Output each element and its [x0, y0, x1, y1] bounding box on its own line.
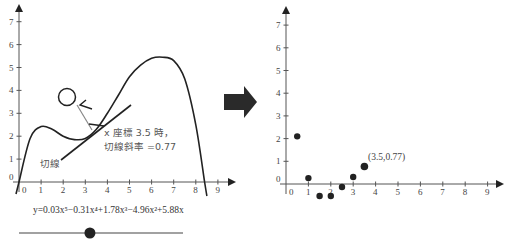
left-y-tick-label: 4 — [9, 85, 14, 95]
x-slider[interactable] — [19, 228, 183, 239]
left-x-tick-label: 3 — [83, 185, 88, 195]
right-x-tick-label: 5 — [396, 187, 401, 197]
left-x-tick-label: 2 — [61, 185, 65, 195]
skier-figure-icon — [59, 89, 105, 131]
left-x-tick-label: 1 — [39, 185, 44, 195]
highlight-point — [361, 163, 369, 171]
right-axes: 012345678901234567 — [276, 10, 500, 197]
tangent-label: 切線 — [40, 158, 60, 169]
right-x-tick-label: 3 — [351, 187, 356, 197]
left-y-tick-label: 0 — [9, 172, 14, 182]
figure-canvas: 012345678901234567 x 座標 3.5 時， 切線斜率 =0.7… — [0, 0, 505, 248]
left-y-tick-label: 2 — [9, 131, 14, 141]
slope-annotation-line1: x 座標 3.5 時， — [104, 127, 174, 138]
left-x-tick-label: 7 — [171, 185, 176, 195]
left-x-tick-label: 8 — [193, 185, 198, 195]
right-y-tick-label: 6 — [276, 43, 281, 53]
right-x-tick-label: 8 — [463, 187, 468, 197]
right-y-tick-label: 7 — [276, 20, 281, 30]
slope-point — [294, 133, 300, 139]
skier-arm-icon — [80, 100, 92, 109]
left-x-tick-label: 6 — [149, 185, 154, 195]
slider-knob[interactable] — [84, 228, 95, 239]
left-y-tick-label: 5 — [9, 63, 14, 73]
slope-point — [350, 174, 356, 180]
right-x-tick-label: 6 — [418, 187, 423, 197]
right-x-tick-label: 4 — [373, 187, 378, 197]
left-y-tick-label: 6 — [9, 40, 14, 50]
left-y-tick-label: 1 — [9, 154, 14, 164]
right-y-tick-label: 4 — [276, 88, 281, 98]
slope-graph: 012345678901234567 (3.5,0.77) — [276, 10, 500, 199]
left-x-tick-label: 9 — [215, 185, 220, 195]
slope-point — [305, 175, 311, 181]
right-y-tick-label: 2 — [276, 134, 281, 144]
slope-annotation-line2: 切線斜率 =0.77 — [104, 141, 176, 152]
right-x-tick-label: 7 — [440, 187, 445, 197]
slope-point — [328, 193, 334, 199]
slope-point — [316, 193, 322, 199]
right-y-tick-label: 1 — [276, 156, 281, 166]
function-graph: 012345678901234567 x 座標 3.5 時， 切線斜率 =0.7… — [9, 8, 232, 239]
right-arrow-icon — [224, 86, 257, 118]
right-x-tick-label: 9 — [485, 187, 490, 197]
function-equation: y=0.03x⁵−0.31x⁴+1.78x³−4.96x²+5.88x — [33, 205, 184, 215]
slope-point — [339, 184, 345, 190]
ski-icon — [89, 124, 104, 126]
right-y-tick-label: 3 — [276, 111, 281, 121]
left-y-tick-label: 7 — [9, 17, 14, 27]
right-y-tick-label: 0 — [276, 174, 281, 184]
right-x-tick-label: 1 — [306, 187, 311, 197]
highlight-point-label: (3.5,0.77) — [368, 152, 405, 163]
right-x-tick-label: 0 — [289, 187, 294, 197]
right-y-tick-label: 5 — [276, 66, 281, 76]
left-y-tick-label: 3 — [9, 108, 14, 118]
left-x-tick-label: 4 — [105, 185, 110, 195]
left-x-tick-label: 0 — [22, 185, 27, 195]
skier-head-icon — [59, 89, 76, 106]
left-x-tick-label: 5 — [127, 185, 132, 195]
